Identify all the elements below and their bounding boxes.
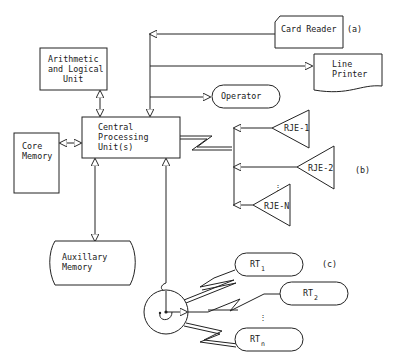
- card-reader-node: Card Reader: [275, 16, 343, 48]
- rje-1-node: RJE-1: [272, 110, 309, 148]
- core-label-1: Core: [22, 141, 42, 151]
- rt-n-node: RT n: [235, 328, 303, 351]
- system-diagram: Arithmetic and Logical Unit Central Proc…: [0, 0, 393, 361]
- rt-ellipsis: ⋮: [259, 312, 267, 322]
- alu-label-1: Arithmetic: [48, 54, 98, 64]
- rt-2-node: RT 2: [280, 282, 348, 305]
- rje-n-node: RJE-N: [253, 184, 290, 226]
- cpu-label-2: Processing: [98, 132, 148, 142]
- rt-1-label: RT: [250, 259, 260, 269]
- rje-2-label: RJE-2: [308, 163, 333, 173]
- operator-label: Operator: [221, 91, 261, 101]
- rt-1-subscript: 1: [261, 265, 265, 273]
- aux-label-1: Auxillary: [62, 252, 107, 262]
- card-reader-label: Card Reader: [281, 24, 336, 34]
- cpu-node: Central Processing Unit(s): [82, 117, 180, 158]
- cpu-label-3: Unit(s): [98, 142, 133, 152]
- operator-node: Operator: [212, 85, 280, 108]
- aux-label-2: Memory: [62, 262, 92, 272]
- rje-2-node: RJE-2: [297, 146, 334, 189]
- rje-n-label: RJE-N: [264, 201, 289, 211]
- alu-node: Arithmetic and Logical Unit: [40, 48, 107, 90]
- printer-label-1: Line: [332, 59, 352, 69]
- rje-comm-link: [180, 136, 232, 147]
- line-printer-node: Line Printer: [314, 54, 382, 92]
- rt-2-label: RT: [303, 288, 313, 298]
- rt-n-subscript: n: [261, 340, 265, 348]
- printer-label-2: Printer: [332, 69, 367, 79]
- core-memory-node: Core Memory: [14, 133, 59, 193]
- core-label-2: Memory: [22, 151, 52, 161]
- multiplexer-node: [144, 290, 188, 334]
- group-label-a: (a): [347, 24, 362, 34]
- auxiliary-memory-node: Auxillary Memory: [50, 241, 136, 285]
- alu-label-2: and Logical: [48, 64, 103, 74]
- cpu-label-1: Central: [98, 122, 133, 132]
- rt-n-label: RT: [250, 334, 260, 344]
- group-label-b: (b): [355, 165, 370, 175]
- rje-1-label: RJE-1: [284, 123, 309, 133]
- rt-1-node: RT 1: [235, 253, 303, 276]
- rt-2-subscript: 2: [314, 294, 318, 302]
- alu-label-3: Unit: [63, 74, 83, 84]
- group-label-c: (c): [322, 259, 337, 269]
